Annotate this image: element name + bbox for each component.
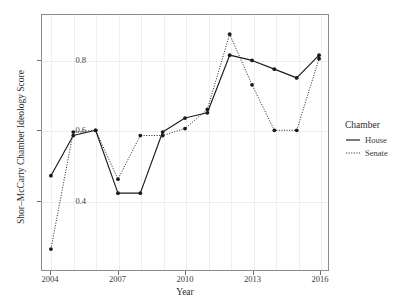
point-house-2013 — [250, 59, 254, 63]
x-tick-mark-2010 — [185, 271, 186, 275]
x-tick-mark-2016 — [320, 271, 321, 275]
chart-container: 0.40.60.8 20042007201020132016 Year Shor… — [0, 0, 420, 303]
series-layer — [42, 15, 328, 270]
x-tick-label-2016: 2016 — [312, 274, 329, 284]
point-senate-2009 — [161, 134, 165, 138]
legend-key-dotted-icon — [345, 148, 361, 158]
y-tick-mark-0.8 — [37, 60, 41, 61]
point-house-2007 — [116, 191, 120, 195]
point-house-2008 — [138, 191, 142, 195]
point-senate-2011 — [205, 107, 209, 111]
x-tick-label-2007: 2007 — [109, 274, 126, 284]
point-senate-2008 — [138, 134, 142, 138]
point-house-2014 — [272, 67, 276, 71]
y-tick-label-0.4: 0.4 — [75, 196, 86, 206]
y-tick-label-0.8: 0.8 — [75, 55, 86, 65]
legend-item-senate[interactable]: Senate — [345, 148, 417, 158]
legend-label-house: House — [365, 135, 387, 145]
legend-items: HouseSenate — [345, 135, 417, 158]
legend-title: Chamber — [345, 120, 417, 130]
point-house-2015 — [295, 76, 299, 80]
point-house-2012 — [228, 53, 232, 57]
legend-label-senate: Senate — [365, 148, 388, 158]
series-senate — [49, 32, 321, 251]
y-axis-title: Shor–McCarty Chamber Ideology Score — [16, 22, 26, 272]
x-tick-mark-2004 — [50, 271, 51, 275]
point-senate-2015 — [295, 128, 299, 132]
y-tick-mark-0.6 — [37, 130, 41, 131]
point-house-2011 — [205, 111, 209, 115]
legend: Chamber HouseSenate — [345, 120, 417, 158]
point-senate-2016 — [317, 57, 321, 61]
legend-item-house[interactable]: House — [345, 135, 417, 145]
point-house-2004 — [49, 174, 53, 178]
y-tick-mark-0.4 — [37, 201, 41, 202]
point-senate-2013 — [250, 83, 254, 87]
point-senate-2004 — [49, 247, 53, 251]
point-house-2016 — [317, 53, 321, 57]
plot-panel — [41, 14, 329, 271]
point-senate-2012 — [228, 32, 232, 36]
point-senate-2010 — [183, 127, 187, 131]
point-house-2010 — [183, 116, 187, 120]
legend-key-solid-icon — [345, 135, 361, 145]
line-house — [51, 55, 319, 193]
point-senate-2007 — [116, 177, 120, 181]
point-senate-2006 — [94, 128, 98, 132]
series-house — [49, 53, 321, 195]
point-house-2009 — [161, 130, 165, 134]
x-tick-label-2010: 2010 — [177, 274, 194, 284]
x-tick-label-2004: 2004 — [42, 274, 59, 284]
point-senate-2014 — [272, 128, 276, 132]
line-senate — [51, 34, 319, 249]
y-tick-label-0.6: 0.6 — [75, 125, 86, 135]
x-axis-title: Year — [41, 287, 329, 297]
x-tick-label-2013: 2013 — [244, 274, 261, 284]
x-tick-mark-2013 — [253, 271, 254, 275]
x-tick-mark-2007 — [118, 271, 119, 275]
